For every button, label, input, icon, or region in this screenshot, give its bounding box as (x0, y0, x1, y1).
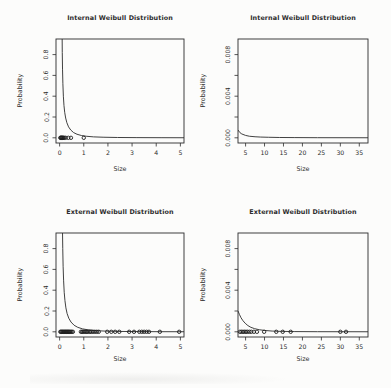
y-tick-label: 0.008 (225, 240, 232, 258)
x-tick-label: 30 (336, 149, 344, 156)
density-curve (238, 311, 368, 332)
x-tick-label: 5 (244, 149, 248, 156)
plot-title-external-overview: External Weibull Distribution (56, 209, 184, 216)
x-tick-label: 2 (106, 343, 110, 350)
density-curve (62, 39, 184, 138)
y-tick-label: 0.6 (43, 264, 50, 274)
y-tick-label: 0.4 (43, 91, 50, 101)
y-tick-label: 0.2 (43, 306, 50, 316)
x-axis-label-external-overview: Size (56, 356, 184, 363)
x-axis-label-internal-zoom: Size (238, 166, 368, 173)
x-tick-label: 10 (261, 343, 269, 350)
x-tick-label: 35 (355, 149, 363, 156)
plot-canvas: 0123450.00.20.40.60.851015202530350.0000… (0, 0, 391, 388)
plot-external-zoom: 51015202530350.0000.0040.008 (225, 233, 369, 350)
x-tick-label: 30 (336, 343, 344, 350)
plot-box (56, 39, 184, 143)
y-tick-label: 0.6 (43, 70, 50, 80)
y-axis-label-internal-zoom: Probability (200, 39, 207, 143)
data-point (110, 330, 113, 333)
x-tick-label: 0 (58, 343, 62, 350)
x-axis-label-internal-overview: Size (56, 166, 184, 173)
x-tick-label: 5 (178, 343, 182, 350)
y-tick-label: 0.004 (225, 281, 232, 299)
x-tick-label: 2 (106, 149, 110, 156)
x-tick-label: 5 (178, 149, 182, 156)
x-tick-label: 10 (261, 149, 269, 156)
y-tick-label: 0.0 (43, 327, 50, 337)
x-tick-label: 3 (130, 149, 134, 156)
plot-box (238, 39, 368, 143)
x-tick-label: 1 (82, 343, 86, 350)
y-axis-label-external-overview: Probability (17, 233, 24, 337)
data-point (106, 330, 109, 333)
x-tick-label: 20 (298, 343, 306, 350)
y-tick-label: 0.004 (225, 87, 232, 105)
y-tick-label: 0.4 (43, 285, 50, 295)
x-tick-label: 15 (280, 149, 288, 156)
x-tick-label: 20 (298, 149, 306, 156)
plot-external-overview: 0123450.00.20.40.60.8 (43, 233, 185, 350)
x-tick-label: 4 (154, 343, 158, 350)
x-axis-label-external-zoom: Size (238, 356, 368, 363)
y-tick-label: 0.0 (43, 133, 50, 143)
weibull-figure: 0123450.00.20.40.60.851015202530350.0000… (0, 0, 391, 388)
data-point (82, 136, 85, 139)
x-tick-label: 5 (244, 343, 248, 350)
plot-internal-zoom: 51015202530350.0000.0040.008 (225, 39, 369, 156)
x-tick-label: 1 (82, 149, 86, 156)
plot-title-external-zoom: External Weibull Distribution (238, 209, 368, 216)
y-tick-label: 0.000 (225, 129, 232, 147)
plot-box (56, 233, 184, 337)
plot-title-internal-zoom: Internal Weibull Distribution (238, 15, 368, 22)
y-tick-label: 0.8 (43, 50, 50, 60)
x-tick-label: 35 (355, 343, 363, 350)
x-tick-label: 25 (317, 343, 325, 350)
y-tick-label: 0.000 (225, 323, 232, 341)
plot-box (238, 233, 368, 337)
density-curve (238, 130, 368, 138)
density-curve (63, 233, 184, 332)
data-point (275, 330, 278, 333)
plot-internal-overview: 0123450.00.20.40.60.8 (43, 39, 185, 156)
y-axis-label-internal-overview: Probability (17, 39, 24, 143)
y-tick-label: 0.008 (225, 46, 232, 64)
y-tick-label: 0.8 (43, 244, 50, 254)
y-axis-label-external-zoom: Probability (200, 233, 207, 337)
x-tick-label: 3 (130, 343, 134, 350)
x-tick-label: 15 (280, 343, 288, 350)
x-tick-label: 25 (317, 149, 325, 156)
x-tick-label: 0 (58, 149, 62, 156)
x-tick-label: 4 (154, 149, 158, 156)
y-tick-label: 0.2 (43, 112, 50, 122)
plot-title-internal-overview: Internal Weibull Distribution (56, 15, 184, 22)
